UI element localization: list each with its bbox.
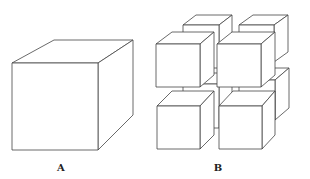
- cube-front-bottom-left: [157, 91, 214, 149]
- cube-front-top-left: [156, 32, 214, 87]
- cube-diagram: [0, 0, 310, 179]
- panel-a-large-cube: [12, 40, 133, 150]
- panel-b-cube-grid: [156, 15, 289, 149]
- cube-front-top-right: [217, 32, 275, 87]
- panel-label-a: A: [57, 162, 65, 173]
- panel-label-b: B: [214, 162, 222, 173]
- cube-front-bottom-right: [219, 91, 275, 149]
